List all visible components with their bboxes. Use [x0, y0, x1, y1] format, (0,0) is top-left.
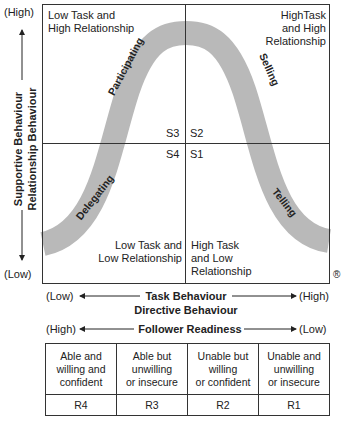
- y-axis-low: (Low): [4, 268, 32, 281]
- y-axis-high: (High): [4, 6, 34, 19]
- x-axis-label-directive: Directive Behaviour: [126, 304, 246, 317]
- quadrant-top-right-label: HighTask and High Relationship: [265, 9, 326, 48]
- style-s2: S2: [190, 127, 203, 140]
- quadrant-bottom-right-label: High Task and Low Relationship: [191, 239, 252, 278]
- readiness-code-r3: R3: [117, 395, 187, 416]
- readiness-desc-r1: Unable andunwillingor insecure: [259, 344, 329, 394]
- quadrant-top-left-label: Low Task and High Relationship: [48, 9, 134, 35]
- readiness-label: Follower Readiness: [130, 323, 250, 336]
- readiness-low: (Low): [299, 323, 327, 336]
- readiness-code-r4: R4: [46, 395, 116, 416]
- readiness-desc-r2: Unable butwillingor confident: [188, 344, 258, 394]
- x-axis-label-task: Task Behaviour: [136, 290, 236, 303]
- readiness-code-r1: R1: [259, 395, 329, 416]
- readiness-code-r2: R2: [188, 395, 258, 416]
- x-axis-low: (Low): [46, 290, 74, 303]
- readiness-desc-r4: Able andwilling andconfident: [46, 344, 116, 394]
- x-axis-high: (High): [299, 290, 329, 303]
- style-s3: S3: [166, 127, 179, 140]
- readiness-high: (High): [46, 323, 76, 336]
- y-axis-label-relationship: Relationship Behaviour: [25, 64, 39, 234]
- quadrant-bottom-left-label: Low Task and Low Relationship: [82, 239, 182, 265]
- registered-mark: ®: [333, 268, 340, 281]
- y-axis-label-supportive: Supportive Behaviour: [11, 64, 25, 234]
- readiness-desc-r3: Able butunwillingor insecure: [117, 344, 187, 394]
- style-s1: S1: [190, 148, 203, 161]
- style-s4: S4: [166, 148, 179, 161]
- y-axis-title: Supportive Behaviour Relationship Behavi…: [11, 64, 39, 234]
